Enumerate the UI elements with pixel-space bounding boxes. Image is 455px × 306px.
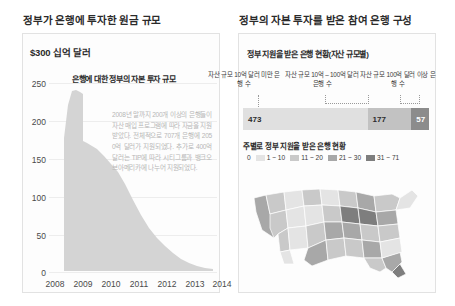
legend-item-2[interactable]: 11 ~ 20 [290,154,323,161]
state-shape [396,190,418,210]
bar-category-label-small: 자산 규모 10억 달러 미만 은행 수 [207,70,281,89]
x-axis-tick: 2014 [207,279,237,289]
right-panel-title: 정부의 자본 투자를 받은 참여 은행 구성 [239,12,412,27]
gridline [49,272,217,273]
bar-segment-large[interactable]: 57 [411,108,429,130]
stacked-bar-chart: 473 177 57 [243,108,429,130]
state-shape [324,222,344,240]
legend-swatch-icon-2 [290,155,299,161]
legend-item-3[interactable]: 21 ~ 30 [328,154,361,161]
x-axis-tick: 2011 [124,279,154,289]
state-shape [338,190,358,208]
x-axis-tick: 2009 [68,279,98,289]
state-shape [362,240,382,258]
us-map-svg [250,168,426,280]
x-axis-tick: 2013 [180,279,210,289]
y-axis-tick: 250 [22,79,46,89]
state-shape [288,226,308,250]
chart-units-label: $300 십억 달러 [30,45,90,59]
legend-label-0: 0 [247,154,251,161]
chart-annotation-text: 2008년 말까지 200개 이상의 은행들이 자산 매입 프로그램에 따라 자… [112,110,212,174]
state-shape [280,250,294,264]
bar-category-label-large: 자산 규모 100억 달러 이상 은행 수 [360,70,436,89]
state-shape [322,205,342,222]
state-shape [326,238,346,260]
state-shape [320,189,340,206]
legend-swatch-icon-4 [366,155,375,161]
legend-swatch-icon-3 [328,155,337,161]
y-axis-tick: 50 [22,231,46,241]
legend-label-3: 21 ~ 30 [339,154,361,161]
leader-bracket-medium [325,95,369,104]
y-axis-tick: 100 [22,193,46,203]
us-choropleth-map[interactable] [250,168,426,280]
y-axis-tick: 200 [22,117,46,127]
legend-label-1: 1 ~ 10 [267,154,286,161]
legend-item-0[interactable]: 0 [247,154,251,161]
state-shape [376,210,398,226]
legend-item-1[interactable]: 1 ~ 10 [256,154,286,161]
bar-segment-medium[interactable]: 177 [368,108,412,130]
bank-status-title: 정부 지원을 받은 은행 현황(자산 규모별) [247,48,369,59]
legend-label-4: 31 ~ 71 [377,154,399,161]
state-shape [342,222,362,240]
x-axis-tick: 2008 [40,279,70,289]
left-panel-title: 정부가 은행에 투자한 원금 규모 [23,12,161,27]
state-shape [340,206,360,224]
leader-line-small [258,95,259,107]
leader-bracket-large [400,95,420,104]
state-shape [286,206,306,228]
state-shape [344,238,364,258]
x-axis-tick: 2012 [152,279,182,289]
map-legend-title: 주별로 정부 지원을 받은 은행 현황 [243,140,346,151]
y-axis-tick: 0 [22,268,46,278]
map-legend: 0 1 ~ 10 11 ~ 20 21 ~ 30 31 ~ 71 [247,154,404,161]
state-shape [302,189,322,206]
state-shape [360,224,380,242]
bar-category-label-medium: 자산 규모 10억 – 100억 달러 은행 수 [285,70,359,89]
legend-swatch-icon-1 [256,155,265,161]
legend-item-4[interactable]: 31 ~ 71 [366,154,399,161]
legend-label-2: 11 ~ 20 [301,154,323,161]
x-axis-tick: 2010 [96,279,126,289]
infographic-page: 정부가 은행에 투자한 원금 규모 정부의 자본 투자를 받은 참여 은행 구성… [0,0,455,306]
y-axis-tick: 150 [22,155,46,165]
bar-segment-small[interactable]: 473 [243,108,368,130]
